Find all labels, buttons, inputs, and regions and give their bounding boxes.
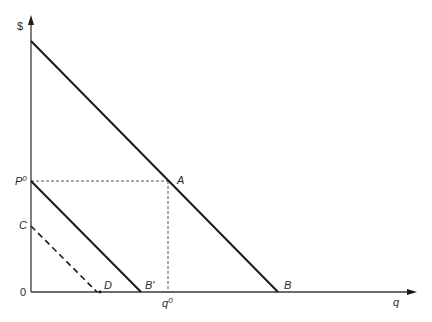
label-B: B (284, 279, 291, 291)
label-q0-sup: 0 (168, 296, 173, 305)
x-axis-label: q (393, 296, 400, 308)
origin-label: 0 (20, 286, 26, 298)
demand-diagram: $ 0 q P0 C A B B' D q0 (0, 0, 432, 322)
demand-line-AB (31, 41, 278, 292)
y-axis-arrow-icon (28, 15, 34, 25)
label-B-prime: B' (145, 279, 155, 291)
y-axis-label: $ (17, 20, 23, 32)
axes (28, 15, 417, 295)
label-P0-sup: 0 (22, 174, 27, 183)
label-D: D (104, 279, 112, 291)
label-A: A (176, 174, 184, 186)
label-P0: P0 (15, 174, 27, 187)
label-q0: q0 (162, 296, 173, 309)
point-D-marker (99, 291, 102, 294)
label-C: C (19, 219, 27, 231)
demand-line-P0B-prime (31, 181, 141, 292)
x-axis-arrow-icon (407, 289, 417, 295)
demand-line-CD (31, 226, 97, 292)
